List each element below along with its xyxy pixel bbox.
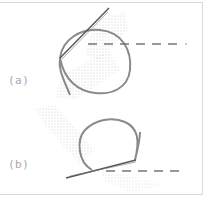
panel-a-diagram	[55, 8, 187, 100]
panel-b-diagram	[35, 105, 182, 192]
panel-b-cloud-left	[35, 105, 95, 165]
diagram-canvas	[0, 0, 216, 201]
panel-b-label: (b)	[8, 158, 29, 171]
panel-a-label: (a)	[8, 74, 29, 87]
panel-b-cloud-lower	[100, 172, 165, 192]
